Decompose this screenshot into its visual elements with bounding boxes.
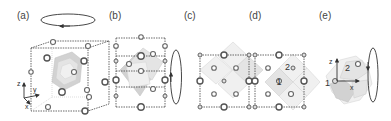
atom (138, 53, 144, 59)
atom (163, 44, 168, 49)
atom (138, 104, 144, 110)
atom (222, 79, 226, 83)
atom (163, 59, 167, 63)
site-label-1: 1 (277, 77, 282, 87)
atom (291, 66, 295, 70)
atom (29, 70, 33, 74)
atom (276, 104, 282, 110)
axis-label-x: x (350, 84, 354, 91)
atom (82, 108, 88, 114)
atom (212, 92, 217, 97)
site-label-2: 2 (345, 63, 350, 73)
panel-e: z x 1 2 (325, 48, 378, 104)
atom (44, 55, 50, 61)
atom (85, 88, 90, 93)
atom (127, 62, 132, 67)
atom (253, 105, 257, 109)
panel-label-a: (a) (17, 10, 29, 21)
axis-label-z: z (329, 58, 333, 65)
rotation-arrow-icon (41, 14, 95, 26)
site-label-1: 1 (325, 78, 330, 88)
atom (102, 79, 108, 85)
atom (163, 94, 167, 98)
atom (266, 92, 271, 97)
panel-label-e: (e) (319, 10, 331, 21)
atom (221, 104, 227, 110)
atom (253, 53, 257, 57)
axis-label-y: y (33, 86, 37, 94)
atom (151, 52, 156, 57)
atom (266, 66, 271, 71)
atom (139, 35, 144, 40)
atom (221, 52, 227, 58)
atom (234, 92, 239, 97)
axis-label-x: x (25, 103, 29, 110)
atom (356, 62, 361, 67)
octahedron (352, 80, 368, 98)
site-label-2: 2 (285, 62, 290, 72)
panel-label-d: (d) (249, 10, 261, 21)
atom (151, 87, 156, 92)
atom (162, 77, 168, 83)
axis-label-z: z (17, 80, 21, 87)
atom (212, 66, 217, 71)
atom (302, 105, 306, 109)
atom (87, 95, 92, 100)
panel-label-b: (b) (109, 10, 121, 21)
atom (276, 52, 282, 58)
crystal-structure-figure: (a) (b) (c) (d) (e) (0, 0, 391, 121)
atom (114, 59, 118, 63)
atom (139, 69, 144, 74)
atom (302, 53, 306, 57)
panel-a: z y x (17, 14, 109, 114)
axes-icon: z y x (17, 80, 39, 110)
atom (113, 77, 119, 83)
panel-c (197, 42, 263, 110)
panel-label-c: (c) (184, 10, 196, 21)
rotation-arrow-icon (171, 50, 182, 104)
atom (114, 94, 118, 98)
atom (289, 92, 294, 97)
atom (81, 58, 87, 64)
atom (247, 53, 251, 57)
atom (86, 44, 91, 49)
atom (114, 44, 119, 49)
unit-cell-top (31, 41, 109, 48)
atom (301, 78, 307, 84)
atom (234, 66, 239, 71)
atom (46, 105, 51, 110)
panel-b (113, 35, 182, 111)
atom (59, 89, 65, 95)
atom (247, 105, 251, 109)
atom (198, 105, 202, 109)
atom (198, 53, 202, 57)
atom (252, 78, 258, 84)
panel-d: 1 2 (252, 52, 320, 110)
atom (197, 78, 203, 84)
atom (246, 78, 252, 84)
atom (72, 70, 77, 75)
atom (51, 40, 56, 45)
